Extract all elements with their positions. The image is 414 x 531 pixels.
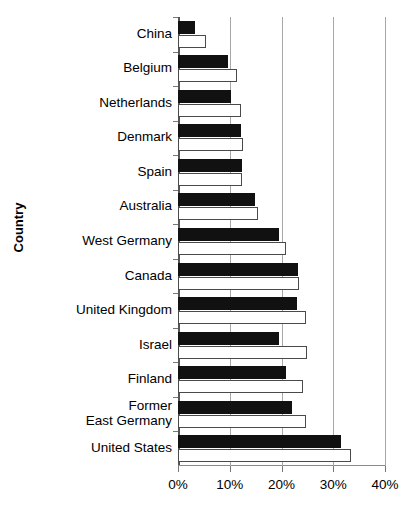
- category-label: West Germany: [28, 233, 172, 248]
- bar-light: [178, 207, 258, 220]
- bar-group: [178, 431, 385, 466]
- x-axis-tick-labels: 0%10%20%30%40%: [130, 477, 414, 501]
- x-axis-tick: [333, 466, 334, 472]
- bar-dark: [178, 435, 341, 448]
- category-label-line: Spain: [28, 164, 172, 179]
- x-axis-tick-label: 10%: [216, 477, 243, 492]
- bar-group: [178, 121, 385, 156]
- category-label-line: Israel: [28, 337, 172, 352]
- bar-group: [178, 190, 385, 225]
- x-axis-tick-label: 20%: [268, 477, 295, 492]
- bar-dark: [178, 332, 279, 345]
- bar-light: [178, 69, 237, 82]
- bar-light: [178, 346, 307, 359]
- bar-dark: [178, 90, 231, 103]
- bar-light: [178, 380, 303, 393]
- category-label: Spain: [28, 164, 172, 179]
- category-label-line: East Germany: [28, 413, 172, 428]
- bar-light: [178, 311, 306, 324]
- category-label-line: China: [28, 26, 172, 41]
- category-label: Denmark: [28, 129, 172, 144]
- x-axis-tick: [385, 466, 386, 472]
- bar-dark: [178, 124, 241, 137]
- bar-light: [178, 449, 351, 462]
- bar-light: [178, 242, 286, 255]
- bar-dark: [178, 55, 228, 68]
- category-label: United Kingdom: [28, 302, 172, 317]
- bar-group: [178, 293, 385, 328]
- bar-dark: [178, 228, 279, 241]
- x-axis-tick-label: 40%: [371, 477, 398, 492]
- x-axis-tick: [230, 466, 231, 472]
- x-axis-tick-label: 30%: [320, 477, 347, 492]
- plot-area: [178, 17, 385, 466]
- category-label-line: Belgium: [28, 60, 172, 75]
- x-axis-tick: [178, 466, 179, 472]
- category-label-line: United Kingdom: [28, 302, 172, 317]
- bar-dark: [178, 193, 255, 206]
- category-label: Netherlands: [28, 95, 172, 110]
- bar-dark: [178, 159, 242, 172]
- bar-group: [178, 259, 385, 294]
- category-label-line: United States: [28, 440, 172, 455]
- category-label-line: Netherlands: [28, 95, 172, 110]
- category-label-line: West Germany: [28, 233, 172, 248]
- bar-light: [178, 277, 299, 290]
- x-axis-tick-label: 0%: [168, 477, 188, 492]
- category-label: Belgium: [28, 60, 172, 75]
- category-label: Canada: [28, 268, 172, 283]
- bar-group: [178, 17, 385, 52]
- category-label-line: Denmark: [28, 129, 172, 144]
- bar-dark: [178, 263, 298, 276]
- bar-group: [178, 52, 385, 87]
- bar-group: [178, 86, 385, 121]
- category-label-line: Former: [28, 398, 172, 413]
- bar-group: [178, 224, 385, 259]
- bar-light: [178, 35, 206, 48]
- x-axis-tick: [282, 466, 283, 472]
- category-label: Australia: [28, 198, 172, 213]
- bar-dark: [178, 401, 292, 414]
- category-label-line: Australia: [28, 198, 172, 213]
- bar-light: [178, 173, 242, 186]
- category-axis-labels: ChinaBelgiumNetherlandsDenmarkSpainAustr…: [28, 17, 172, 466]
- bar-chart: Country ChinaBelgiumNetherlandsDenmarkSp…: [0, 0, 414, 531]
- category-label-line: Finland: [28, 371, 172, 386]
- category-label: United States: [28, 440, 172, 455]
- bar-group: [178, 397, 385, 432]
- bar-dark: [178, 366, 286, 379]
- bar-light: [178, 415, 306, 428]
- bar-dark: [178, 21, 195, 34]
- category-label: China: [28, 26, 172, 41]
- gridline-40: [385, 17, 386, 466]
- category-label: Israel: [28, 337, 172, 352]
- category-label: FormerEast Germany: [28, 398, 172, 428]
- bar-light: [178, 104, 241, 117]
- y-axis-title: Country: [11, 188, 26, 268]
- bar-group: [178, 362, 385, 397]
- bar-dark: [178, 297, 297, 310]
- category-label-line: Canada: [28, 268, 172, 283]
- category-label: Finland: [28, 371, 172, 386]
- bar-light: [178, 138, 243, 151]
- bar-group: [178, 155, 385, 190]
- bar-group: [178, 328, 385, 363]
